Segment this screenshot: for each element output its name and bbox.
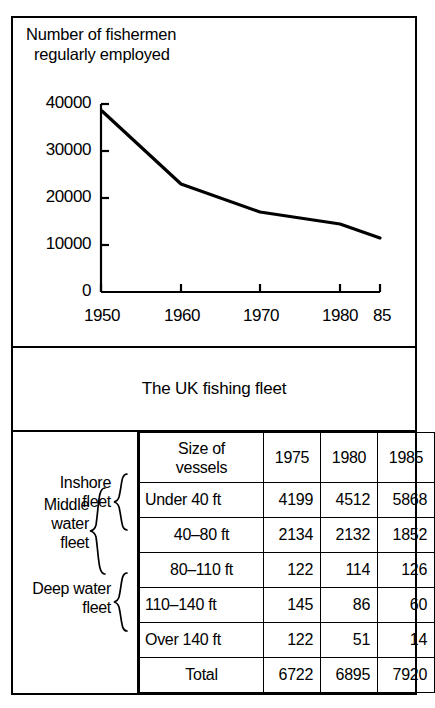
cell-total-1980: 6895 [321, 657, 378, 692]
x-tick-label-1980: 1980 [309, 306, 371, 326]
row-label-110-140-ft: 110–140 ft [140, 588, 264, 623]
chart-panel: Number of fishermen regularly employed 4… [13, 18, 415, 348]
brace-inshore-fleet [113, 473, 129, 531]
cell-80-110-ft-1985: 126 [378, 553, 435, 588]
data-line-fishermen [102, 111, 380, 238]
y-tick-label-40000: 40000 [11, 93, 91, 113]
group-label-deep-water-fleet: Deep water fleet [32, 579, 111, 617]
header-year-1985: 1985 [378, 433, 435, 483]
fleet-data-grid: Size of vessels 1975 1980 1985 Under 40 … [139, 432, 415, 693]
cell-110-140-ft-1985: 60 [378, 588, 435, 623]
header-size-of-vessels: Size of vessels [140, 433, 264, 483]
row-label-80-110-ft: 80–110 ft [140, 553, 264, 588]
figure-caption: The UK fishing fleet [142, 379, 286, 399]
group-label-middle-line-3: fleet [44, 533, 89, 552]
group-label-middle-line-2: water [44, 514, 89, 533]
y-tick-label-20000: 20000 [11, 187, 91, 207]
cell-under-40-ft-1980: 4512 [321, 483, 378, 518]
cell-80-110-ft-1975: 122 [264, 553, 321, 588]
cell-40-80-ft-1985: 1852 [378, 518, 435, 553]
cell-total-1985: 7920 [378, 657, 435, 692]
x-tick-label-1970: 1970 [230, 306, 292, 326]
header-size-line-2: vessels [144, 458, 259, 477]
x-tick-label-1950: 1950 [71, 306, 133, 326]
table-row: Over 140 ft 122 51 14 [140, 623, 435, 658]
cell-110-140-ft-1980: 86 [321, 588, 378, 623]
cell-over-140-ft-1980: 51 [321, 623, 378, 658]
cell-over-140-ft-1975: 122 [264, 623, 321, 658]
y-tick-label-10000: 10000 [11, 234, 91, 254]
figure-caption-panel: The UK fishing fleet [13, 348, 415, 432]
group-label-deep-line-1: Deep water [32, 579, 111, 598]
cell-under-40-ft-1975: 4199 [264, 483, 321, 518]
row-label-under-40-ft: Under 40 ft [140, 483, 264, 518]
cell-total-1975: 6722 [264, 657, 321, 692]
row-label-total: Total [140, 657, 264, 692]
cell-over-140-ft-1985: 14 [378, 623, 435, 658]
cell-40-80-ft-1975: 2134 [264, 518, 321, 553]
table-row: Under 40 ft 4199 4512 5868 [140, 483, 435, 518]
header-size-line-1: Size of [144, 439, 259, 458]
y-tick-label-30000: 30000 [11, 140, 91, 160]
brace-middle-water-fleet [89, 487, 107, 575]
cell-80-110-ft-1980: 114 [321, 553, 378, 588]
x-tick-label-1960: 1960 [151, 306, 213, 326]
header-year-1975: 1975 [264, 433, 321, 483]
y-tick-label-0: 0 [11, 281, 91, 301]
fleet-table-panel: Inshore fleet Middle water fleet [13, 432, 415, 693]
figure-frame: Number of fishermen regularly employed 4… [11, 16, 417, 695]
group-label-middle-line-1: Middle [44, 495, 89, 514]
x-tick-label-1985: 85 [365, 306, 399, 326]
table-row: 110–140 ft 145 86 60 [140, 588, 435, 623]
table-total-row: Total 6722 6895 7920 [140, 657, 435, 692]
cell-110-140-ft-1975: 145 [264, 588, 321, 623]
brace-deep-water-fleet [113, 572, 129, 632]
table-header-row: Size of vessels 1975 1980 1985 [140, 433, 435, 483]
fleet-table: Size of vessels 1975 1980 1985 Under 40 … [139, 432, 435, 693]
table-row: 40–80 ft 2134 2132 1852 [140, 518, 435, 553]
cell-under-40-ft-1985: 5868 [378, 483, 435, 518]
header-year-1980: 1980 [321, 433, 378, 483]
fleet-group-label-column: Inshore fleet Middle water fleet [13, 432, 139, 693]
group-label-middle-water-fleet: Middle water fleet [44, 495, 89, 552]
group-label-deep-line-2: fleet [32, 598, 111, 617]
cell-40-80-ft-1980: 2132 [321, 518, 378, 553]
table-row: 80–110 ft 122 114 126 [140, 553, 435, 588]
row-label-over-140-ft: Over 140 ft [140, 623, 264, 658]
row-label-40-80-ft: 40–80 ft [140, 518, 264, 553]
